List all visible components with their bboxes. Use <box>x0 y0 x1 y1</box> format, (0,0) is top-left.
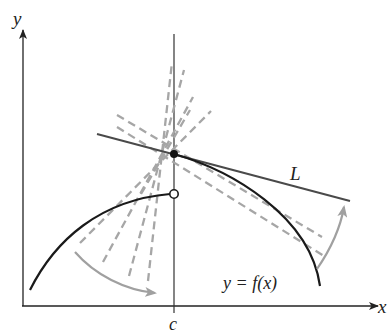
c-tick-label: c <box>169 314 177 334</box>
secant-lines <box>80 62 324 281</box>
function-label: y = f(x) <box>221 273 277 294</box>
filled-point <box>170 150 178 158</box>
y-axis-label: y <box>11 8 22 29</box>
tangent-line-L <box>97 134 350 201</box>
rotation-arrow-left <box>75 252 155 293</box>
tangent-label: L <box>289 163 301 184</box>
x-axis-label: x <box>377 296 387 317</box>
rotation-arrow-right <box>317 207 344 269</box>
derivative-diagram: y x c L y = f(x) <box>0 0 388 335</box>
open-point <box>170 190 178 198</box>
